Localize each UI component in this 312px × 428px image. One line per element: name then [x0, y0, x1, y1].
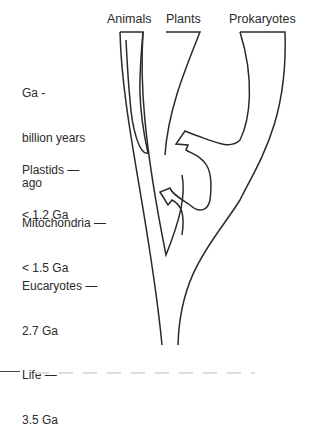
faint-caption [35, 372, 255, 374]
event-age: 3.5 Ga [22, 413, 58, 428]
trunk-left-edge [120, 32, 162, 345]
plants-right-edge [165, 32, 200, 155]
prokaryotes-branch [178, 32, 285, 345]
plastid-arrow-source [195, 32, 249, 145]
baseline-tick [0, 371, 20, 372]
